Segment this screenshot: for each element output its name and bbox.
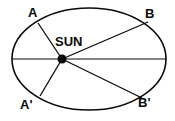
orbit-diagram: SUN A B A' B' — [0, 0, 175, 121]
point-b-prime-label: B' — [138, 96, 150, 109]
radius-vector-b-prime — [62, 59, 142, 98]
sun-focus-dot — [58, 55, 67, 64]
point-a-prime-label: A' — [20, 98, 32, 111]
point-b-label: B — [145, 7, 154, 20]
sun-label: SUN — [55, 35, 82, 48]
point-a-label: A — [28, 6, 37, 19]
radius-vector-a-prime — [40, 59, 62, 96]
